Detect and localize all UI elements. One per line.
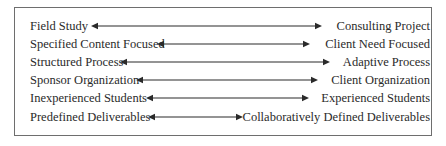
right-label: Consulting Project [337, 17, 430, 35]
continuum-row: Predefined Deliverables Collaboratively … [0, 108, 446, 126]
continuum-row: Field Study Consulting Project [0, 17, 446, 35]
continuum-row: Structured Process Adaptive Process [0, 53, 446, 71]
continuum-row: Specified Content Focused Client Need Fo… [0, 35, 446, 53]
right-label: Adaptive Process [343, 53, 430, 71]
right-label: Collaboratively Defined Deliverables [243, 108, 430, 126]
right-label: Client Organization [331, 71, 430, 89]
right-label: Client Need Focused [325, 35, 430, 53]
continuum-row: Inexperienced Students Experienced Stude… [0, 89, 446, 107]
continuum-row: Sponsor Organization Client Organization [0, 71, 446, 89]
right-label: Experienced Students [321, 89, 430, 107]
